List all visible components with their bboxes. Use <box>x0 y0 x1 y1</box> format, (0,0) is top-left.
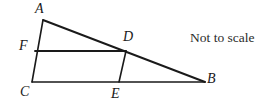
vertex-label-b: B <box>207 72 216 86</box>
vertex-label-c: C <box>20 85 29 99</box>
geometry-drawing <box>0 0 279 112</box>
vertex-label-e: E <box>111 87 120 101</box>
vertex-label-d: D <box>123 30 133 44</box>
segment-DE <box>119 51 126 82</box>
not-to-scale-note: Not to scale <box>190 31 254 45</box>
vertex-label-f: F <box>19 39 28 53</box>
geometry-figure: A F C D E B Not to scale <box>0 0 279 112</box>
vertex-label-a: A <box>35 2 44 16</box>
